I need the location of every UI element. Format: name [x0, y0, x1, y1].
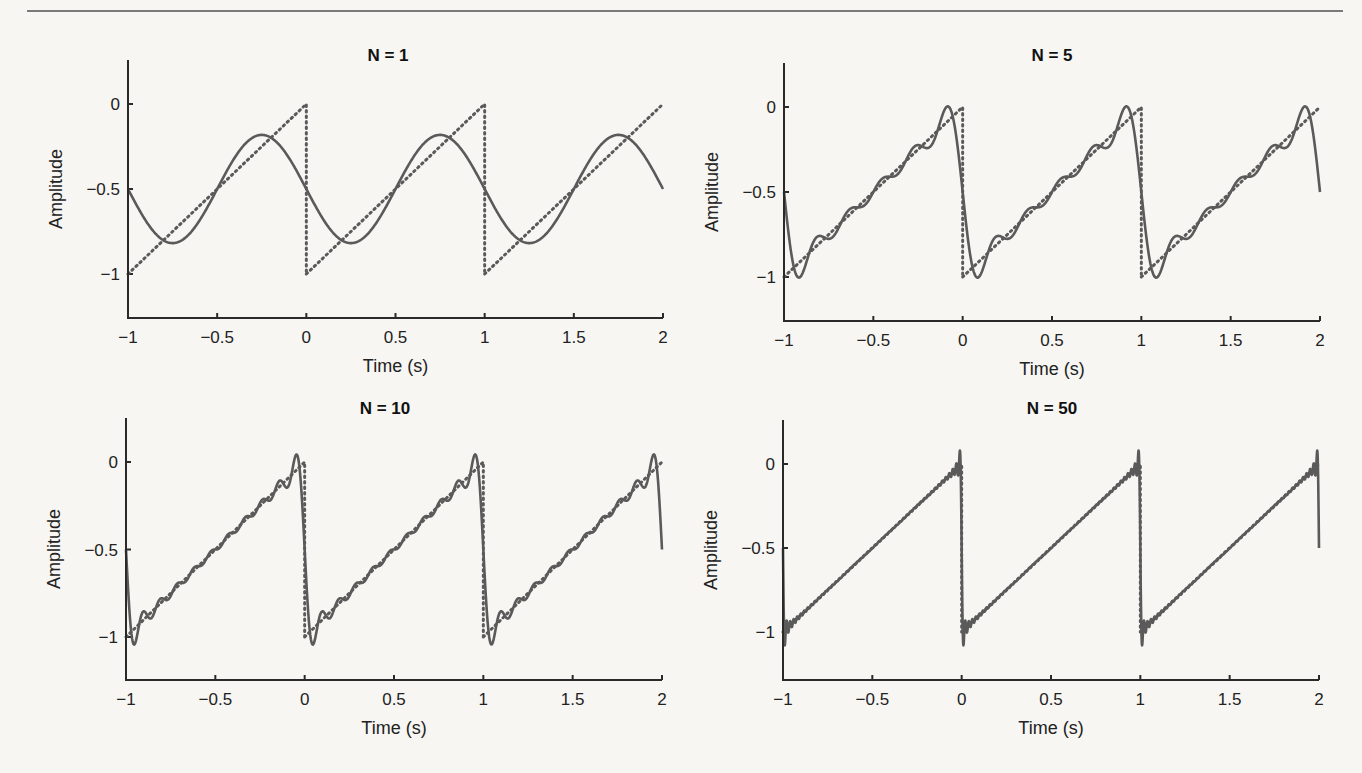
x-tick-label: −0.5: [856, 690, 890, 709]
fourier-approximation-line: [783, 451, 1319, 646]
panel-n1: N = 1 Amplitude Time (s) −1−0.500.511.52…: [46, 46, 668, 376]
x-tick-label: −1: [774, 331, 793, 350]
y-tick-label: −0.5: [742, 183, 776, 202]
x-tick-label: 0: [302, 328, 311, 347]
x-tick-label: 0: [957, 690, 966, 709]
y-tick-label: −0.5: [84, 541, 118, 560]
x-tick-label: 1: [480, 328, 489, 347]
x-tick-label: 0.5: [384, 328, 408, 347]
y-tick-label: −1: [99, 628, 118, 647]
panel-title: N = 5: [1031, 46, 1072, 65]
x-tick-label: 0: [300, 690, 309, 709]
x-tick-label: −0.5: [857, 331, 891, 350]
axis-ticks: −1−0.500.511.520−0.5−1: [84, 453, 666, 709]
panel-n50: N = 50 Amplitude Time (s) −1−0.500.511.5…: [701, 399, 1324, 738]
x-tick-label: −1: [118, 328, 137, 347]
y-tick-label: 0: [111, 95, 120, 114]
x-tick-label: −0.5: [200, 328, 234, 347]
panel-title: N = 1: [367, 46, 408, 65]
x-tick-label: −1: [773, 690, 792, 709]
x-tick-label: 1: [1137, 331, 1146, 350]
y-tick-label: −1: [757, 268, 776, 287]
x-tick-label: 1: [1136, 690, 1145, 709]
y-axis-label: Amplitude: [701, 510, 721, 590]
y-tick-label: −0.5: [86, 180, 120, 199]
fourier-approximation-line: [784, 106, 1320, 277]
y-axis-label: Amplitude: [44, 509, 64, 589]
x-tick-label: 2: [1314, 690, 1323, 709]
x-tick-label: 1.5: [562, 328, 586, 347]
x-tick-label: 1.5: [1218, 690, 1242, 709]
fourier-approximation-line: [126, 454, 662, 644]
y-axis-label: Amplitude: [46, 149, 66, 229]
panel-title: N = 10: [360, 399, 411, 418]
y-tick-label: 0: [109, 453, 118, 472]
axis-ticks: −1−0.500.511.520−0.5−1: [742, 98, 1324, 350]
panel-n10: N = 10 Amplitude Time (s) −1−0.500.511.5…: [44, 399, 667, 738]
fourier-approximation-line: [128, 135, 663, 243]
x-tick-label: 1.5: [1219, 331, 1243, 350]
x-axis-label: Time (s): [1019, 359, 1084, 379]
y-tick-label: −1: [756, 623, 775, 642]
x-tick-label: −0.5: [199, 690, 233, 709]
x-axis-label: Time (s): [1018, 718, 1083, 738]
x-tick-label: 2: [658, 328, 667, 347]
y-tick-label: −1: [101, 265, 120, 284]
x-tick-label: 0: [958, 331, 967, 350]
y-tick-label: 0: [767, 98, 776, 117]
x-tick-label: −1: [116, 690, 135, 709]
x-tick-label: 0.5: [382, 690, 406, 709]
y-tick-label: 0: [766, 455, 775, 474]
x-tick-label: 2: [1315, 331, 1324, 350]
x-tick-label: 2: [657, 690, 666, 709]
x-axis-label: Time (s): [361, 718, 426, 738]
x-tick-label: 0.5: [1040, 331, 1064, 350]
x-tick-label: 1: [479, 690, 488, 709]
y-axis-label: Amplitude: [702, 152, 722, 232]
panel-title: N = 50: [1027, 399, 1078, 418]
panel-n5: N = 5 Amplitude Time (s) −1−0.500.511.52…: [702, 46, 1325, 379]
y-tick-label: −0.5: [741, 539, 775, 558]
x-tick-label: 1.5: [561, 690, 585, 709]
fourier-sawtooth-figure: N = 1 Amplitude Time (s) −1−0.500.511.52…: [0, 0, 1362, 773]
x-tick-label: 0.5: [1039, 690, 1063, 709]
axis-ticks: −1−0.500.511.520−0.5−1: [741, 455, 1323, 709]
x-axis-label: Time (s): [363, 356, 428, 376]
